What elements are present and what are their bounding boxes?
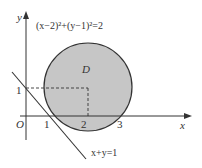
circle-equation-label: (x−2)²+(y−1)²=2 <box>36 21 103 31</box>
y-axis-arrow-icon <box>23 11 29 19</box>
region-d-label: D <box>82 64 90 75</box>
y-axis-label: y <box>17 12 22 23</box>
x-axis-label: x <box>180 120 185 131</box>
x-tick-1: 1 <box>44 119 50 130</box>
x-tick-3: 3 <box>117 119 123 130</box>
x-axis-arrow-icon <box>184 113 192 119</box>
line-equation-label: x+y=1 <box>91 148 117 158</box>
x-tick-2: 2 <box>81 119 87 130</box>
y-tick-1: 1 <box>16 85 22 96</box>
origin-label: O <box>16 119 24 130</box>
